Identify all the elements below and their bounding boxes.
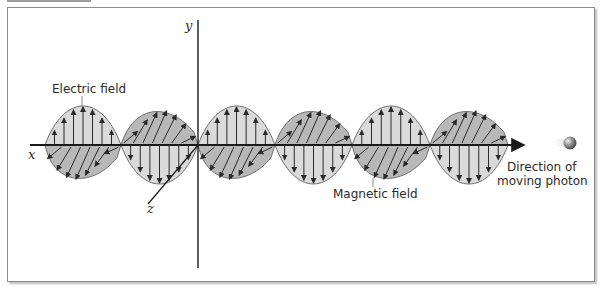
electric-field-label: Electric field	[52, 82, 126, 96]
magnetic-lobe	[275, 112, 352, 145]
em-wave-diagram: y x z Electric field Magnetic field Dire…	[0, 0, 604, 289]
magnetic-lobe	[198, 145, 275, 178]
x-axis-label: x	[28, 147, 36, 162]
direction-label-line1: Direction of	[507, 160, 577, 174]
magnetic-lobe	[352, 145, 430, 178]
magnetic-lobe	[121, 112, 198, 145]
z-axis-label: z	[146, 201, 154, 216]
photon	[549, 137, 577, 150]
direction-label-line2: moving photon	[497, 174, 588, 188]
sphere-icon	[564, 137, 577, 150]
y-axis-label: y	[184, 18, 193, 33]
magnetic-lobe	[45, 145, 121, 178]
magnetic-lobe	[430, 112, 508, 145]
magnetic-field-label: Magnetic field	[333, 187, 418, 201]
